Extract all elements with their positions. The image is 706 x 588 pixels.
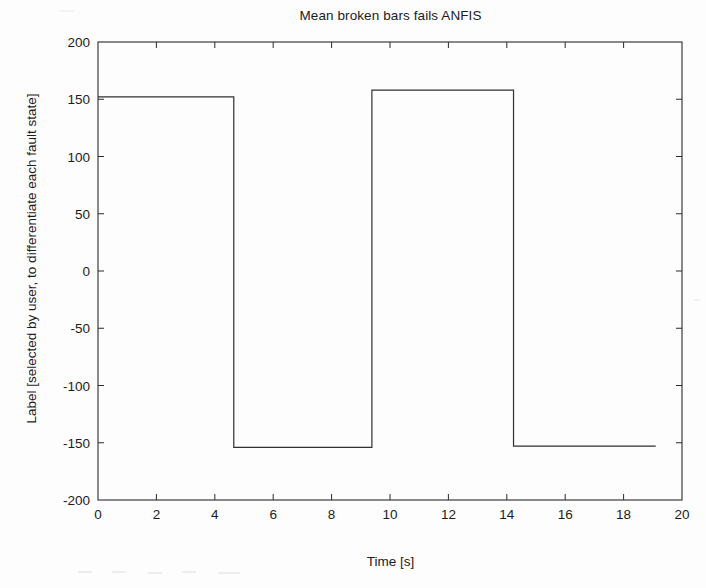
y-tick-label: 200 [32,35,90,50]
figure-canvas: Mean broken bars fails ANFIS Label [sele… [0,0,706,588]
x-tick-label: 10 [370,507,410,522]
y-tick-marks [98,99,682,443]
x-tick-label: 16 [545,507,585,522]
y-tick-label: 150 [32,92,90,107]
x-tick-label: 4 [195,507,235,522]
x-tick-label: 14 [487,507,527,522]
series-line-0 [98,90,656,447]
x-tick-label: 0 [78,507,118,522]
y-tick-label: 0 [32,264,90,279]
axes-frame [98,42,682,500]
x-tick-label: 18 [604,507,644,522]
y-tick-label: 50 [32,206,90,221]
axes-box [98,42,682,500]
y-tick-label: -100 [32,378,90,393]
x-tick-label: 20 [662,507,702,522]
x-tick-label: 6 [253,507,293,522]
chart-plot-area [0,0,706,588]
data-series-line [98,90,656,447]
x-tick-label: 12 [428,507,468,522]
y-tick-label: -150 [32,435,90,450]
y-tick-label: -50 [32,321,90,336]
x-tick-label: 8 [312,507,352,522]
y-tick-label: -200 [32,493,90,508]
x-tick-label: 2 [136,507,176,522]
y-tick-label: 100 [32,149,90,164]
x-tick-marks [156,42,623,500]
